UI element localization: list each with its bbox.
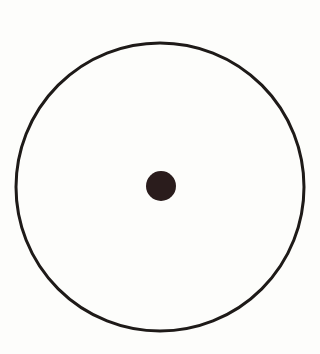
diagram-canvas xyxy=(0,0,320,354)
center-point xyxy=(146,171,176,201)
circle-diagram xyxy=(0,0,320,354)
